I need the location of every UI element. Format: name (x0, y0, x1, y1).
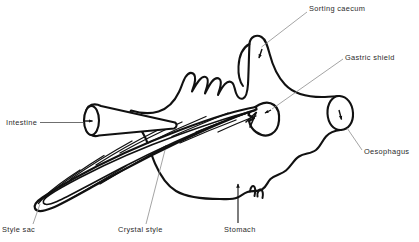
label-crystal-style: Crystal style (118, 226, 163, 233)
leader-oesophagus (347, 128, 362, 150)
leader-sorting-caecum (262, 12, 308, 47)
label-sorting-caecum: Sorting caecum (309, 5, 365, 12)
oesophagus-tube (327, 96, 353, 130)
label-gastric-shield: Gastric shield (345, 54, 395, 61)
label-oesophagus: Oesophagus (364, 148, 409, 155)
anatomical-diagram (0, 0, 419, 242)
label-intestine: Intestine (6, 119, 37, 126)
label-style-sac: Style sac (2, 226, 35, 233)
label-stomach: Stomach (224, 226, 256, 233)
